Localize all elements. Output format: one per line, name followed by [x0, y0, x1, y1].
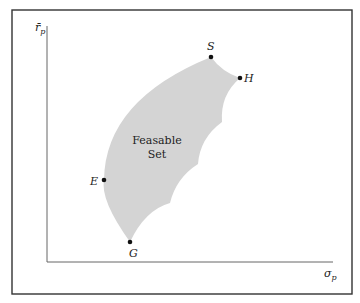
region-label-line2: Set [148, 148, 167, 161]
point-s-marker [209, 55, 214, 60]
feasible-set-diagram: S H E G Feasable Set r̄p σp [0, 0, 360, 303]
x-axis-label: σp [324, 267, 337, 282]
point-g-marker [128, 240, 133, 245]
point-h-marker [238, 76, 243, 81]
point-h-label: H [243, 72, 254, 85]
point-s-label: S [207, 40, 215, 53]
point-e-marker [102, 178, 107, 183]
point-e-label: E [89, 175, 98, 188]
y-axis-label: r̄p [35, 21, 45, 36]
region-label-line1: Feasable [132, 134, 181, 147]
feasible-set-region [104, 57, 240, 242]
point-g-label: G [129, 247, 138, 260]
